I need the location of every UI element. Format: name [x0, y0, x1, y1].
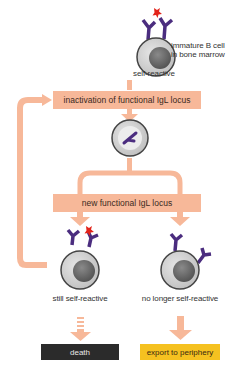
no-longer-self-reactive-cell-icon [161, 251, 199, 289]
antigen-mark-icon [85, 226, 95, 236]
receptor-icon [143, 18, 172, 40]
label-line-2: in bone marrow [171, 50, 225, 59]
inactivation-step-label: inactivation of functional IgL locus [53, 91, 201, 109]
solid-arrow-icon [169, 316, 192, 340]
immature-b-cell-label: immature B cell in bone marrow [171, 41, 225, 59]
label-line-1: immature B cell [171, 41, 225, 50]
antigen-mark-icon [153, 8, 163, 18]
dashed-arrow-icon [70, 317, 91, 341]
still-self-reactive-cell-icon [61, 251, 99, 289]
death-box: death [41, 344, 119, 360]
export-to-periphery-box: export to periphery [140, 344, 220, 360]
cell-with-locus-icon [112, 120, 148, 156]
still-self-reactive-label: still self-reactive [50, 294, 110, 303]
no-longer-self-reactive-label: no longer self-reactive [138, 294, 222, 303]
new-locus-step-label: new functional IgL locus [53, 194, 201, 212]
self-reactive-label: self-reactive [133, 69, 175, 78]
